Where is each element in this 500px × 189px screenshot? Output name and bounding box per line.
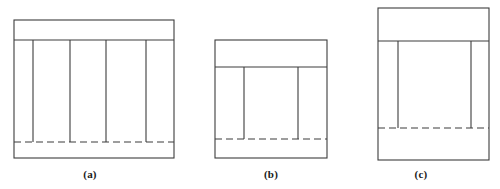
technical-drawing-canvas	[0, 0, 500, 189]
panel-a-interior-vertical-lines	[33, 40, 146, 142]
panel-c-drawing	[378, 8, 489, 160]
panel-c-outer-rectangle	[378, 8, 489, 160]
panel-b-drawing	[215, 40, 327, 158]
panel-a-drawing	[14, 20, 174, 158]
panel-b-caption: (b)	[235, 168, 307, 180]
panel-c-caption: (c)	[385, 168, 457, 180]
panel-b-interior-vertical-lines	[244, 67, 298, 139]
panel-a-outer-rectangle	[14, 20, 174, 158]
figure-plate: (a) (b) (c)	[0, 0, 500, 189]
panel-c-interior-vertical-lines	[398, 41, 471, 128]
panel-b-outer-rectangle	[215, 40, 327, 158]
panel-a-caption: (a)	[54, 168, 126, 180]
